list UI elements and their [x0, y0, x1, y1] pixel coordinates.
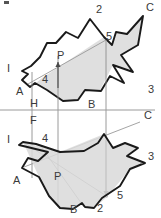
vertex-label-a: A [16, 85, 24, 97]
vertex-label-a: A [13, 174, 21, 186]
top-edge-artifact [4, 1, 9, 4]
vertex-label-3: 3 [148, 83, 154, 95]
vertex-label-4: 4 [42, 132, 48, 144]
vertex-label-3: 3 [148, 150, 154, 162]
vertex-label-c: C [146, 1, 154, 13]
descriptive-geometry-figure: 2C5PI4A3B CI43PA5B2 H F [0, 0, 161, 218]
vertex-label-b: B [70, 203, 77, 215]
projection-drawing-canvas: 2C5PI4A3B CI43PA5B2 H F [0, 0, 161, 218]
vertex-label-c: C [144, 109, 152, 121]
plane-label-horizontal: H [30, 97, 38, 109]
vertex-label-i: I [7, 133, 10, 145]
vertex-label-b: B [88, 98, 95, 110]
plane-label-frontal: F [30, 114, 37, 126]
vertex-label-5: 5 [106, 30, 112, 42]
vertex-label-2: 2 [96, 3, 102, 15]
vertex-label-p: P [54, 170, 61, 182]
vertex-label-i: I [7, 62, 10, 74]
vertex-label-5: 5 [117, 189, 123, 201]
vertex-label-4: 4 [42, 73, 48, 85]
vertex-label-p: P [57, 49, 64, 61]
vertex-label-2: 2 [97, 202, 103, 214]
